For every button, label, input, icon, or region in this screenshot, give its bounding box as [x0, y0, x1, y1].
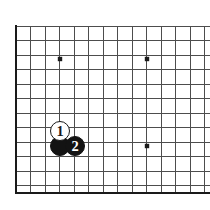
go-board-diagram: 12	[0, 0, 210, 210]
stone-white-1-label: 1	[56, 124, 63, 139]
stone-layer: 12	[0, 0, 210, 210]
stone-black-2-label: 2	[71, 139, 78, 154]
stone-black-2[interactable]: 2	[65, 136, 85, 156]
